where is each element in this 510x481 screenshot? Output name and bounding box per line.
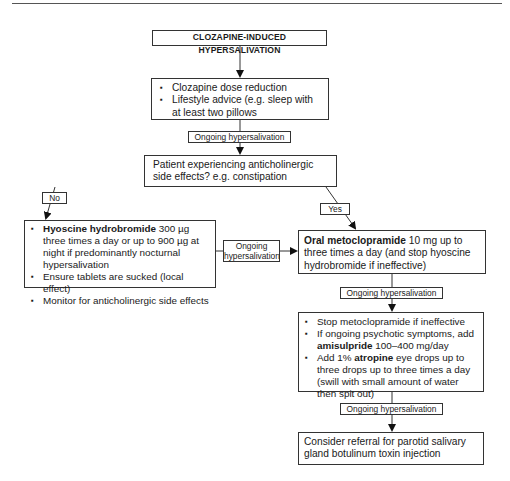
step4-text: Consider referral for parotid salivary g… bbox=[304, 436, 466, 459]
connector-label-1: Ongoing hypersalivation bbox=[188, 131, 291, 143]
step1-box: Clozapine dose reduction Lifestyle advic… bbox=[151, 78, 329, 120]
step3-box: Stop metoclopramide if ineffective If on… bbox=[298, 312, 484, 392]
connector-label-3: Ongoing hypersalivation bbox=[340, 403, 443, 415]
metoclopramide-box: Oral metoclopramide 10 mg up to three ti… bbox=[298, 230, 486, 274]
step3-list: Stop metoclopramide if ineffective If on… bbox=[303, 316, 479, 400]
hyoscine-item: Hyoscine hydrobromide 300 µg three times… bbox=[29, 223, 211, 271]
decision-box: Patient experiencing anticholinergic sid… bbox=[144, 155, 337, 187]
no-label: No bbox=[42, 192, 67, 204]
step3-item: If ongoing psychotic symptoms, add amisu… bbox=[303, 328, 479, 352]
hyoscine-box: Hyoscine hydrobromide 300 µg three times… bbox=[24, 220, 216, 288]
title-text: CLOZAPINE-INDUCED HYPERSALIVATION bbox=[193, 32, 286, 55]
step1-item: Lifestyle advice (e.g. sleep with at lea… bbox=[158, 94, 322, 119]
title-box: CLOZAPINE-INDUCED HYPERSALIVATION bbox=[152, 30, 327, 46]
drug-name: Oral metoclopramide bbox=[304, 235, 406, 246]
side-connector-label: Ongoing hypersalivation bbox=[223, 240, 280, 262]
step3-item: Stop metoclopramide if ineffective bbox=[303, 316, 479, 328]
step3-item: Add 1% atropine eye drops up to three dr… bbox=[303, 352, 479, 400]
hyoscine-item: Ensure tablets are sucked (local effect) bbox=[29, 271, 211, 295]
step1-item: Clozapine dose reduction bbox=[158, 82, 322, 94]
hyoscine-list: Hyoscine hydrobromide 300 µg three times… bbox=[29, 223, 211, 307]
connector-label-2: Ongoing hypersalivation bbox=[340, 287, 443, 299]
yes-label: Yes bbox=[320, 203, 350, 215]
hyoscine-item: Monitor for anticholinergic side effects bbox=[29, 295, 211, 307]
decision-text: Patient experiencing anticholinergic sid… bbox=[153, 159, 313, 182]
drug-name: Hyoscine hydrobromide bbox=[43, 223, 156, 234]
step1-list: Clozapine dose reduction Lifestyle advic… bbox=[158, 82, 322, 119]
step4-box: Consider referral for parotid salivary g… bbox=[298, 432, 484, 465]
